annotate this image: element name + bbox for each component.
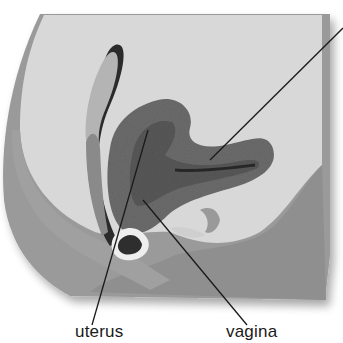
anatomy-diagram: uterus vagina [0,0,343,343]
pelvic-model-illustration [0,0,343,343]
label-uterus: uterus [75,322,123,342]
label-vagina: vagina [226,322,277,342]
